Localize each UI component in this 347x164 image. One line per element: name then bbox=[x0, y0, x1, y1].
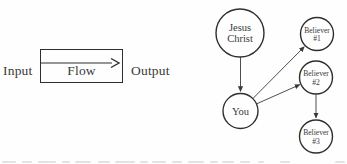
node-jesus-christ-label-line1: Jesus bbox=[229, 22, 251, 33]
edge-you-to-believer-1 bbox=[253, 47, 304, 99]
flow-input-label: Input bbox=[3, 63, 33, 79]
node-jesus-christ-label-line2: Christ bbox=[227, 33, 253, 44]
flow-output-label: Output bbox=[131, 63, 170, 79]
node-believer-2-label-line2: #2 bbox=[312, 78, 320, 87]
cropped-caption-fragments bbox=[0, 160, 347, 164]
flow-diagram: Input Flow Output bbox=[0, 0, 200, 164]
flow-box: Flow bbox=[40, 49, 123, 83]
node-you-label: You bbox=[232, 106, 250, 117]
node-believer-1-label-line2: #1 bbox=[313, 34, 321, 43]
discipleship-network-diagram: Jesus Christ Believer #1 Believer #2 You… bbox=[200, 0, 347, 164]
edge-you-to-believer-2 bbox=[257, 85, 300, 104]
node-believer-3-label-line2: #3 bbox=[312, 137, 320, 146]
flow-box-label: Flow bbox=[41, 63, 122, 79]
figure-canvas: Input Flow Output Jesus Christ bbox=[0, 0, 347, 164]
